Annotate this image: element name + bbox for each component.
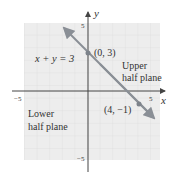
upper-region-label-2: half plane: [122, 72, 162, 83]
point-4-neg1: [137, 102, 142, 107]
point-label-4-neg1: (4, −1): [104, 104, 131, 116]
x-axis-label: x: [160, 94, 166, 106]
equation-label: x + y = 3: [34, 53, 74, 64]
point-0-3: [86, 51, 91, 56]
x-tick-5: 5: [149, 95, 153, 103]
point-label-0-3: (0, 3): [94, 47, 116, 59]
lower-region-label-1: Lower: [28, 108, 55, 119]
y-tick-5: 5: [81, 22, 85, 30]
y-tick-neg5: −5: [77, 155, 85, 163]
lower-region-label-2: half plane: [28, 121, 68, 132]
x-tick-neg5: −5: [14, 95, 22, 103]
y-axis-label: y: [93, 7, 99, 19]
upper-region-label-1: Upper: [122, 60, 148, 71]
half-plane-diagram: y x 5 −5 −5 5 x + y = 3 (0, 3) (4, −1) U…: [0, 0, 175, 180]
